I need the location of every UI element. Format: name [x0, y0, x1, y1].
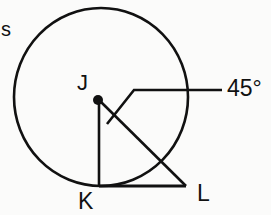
geometry-diagram: s J K L 45°	[0, 0, 271, 215]
center-point-j	[93, 95, 103, 105]
corner-label: s	[1, 19, 11, 39]
point-label-j: J	[77, 72, 88, 94]
segment-jl	[99, 100, 186, 186]
angle-label: 45°	[227, 77, 262, 100]
diagram-figure	[0, 0, 271, 215]
point-label-l: L	[197, 182, 210, 205]
point-label-k: K	[78, 190, 93, 213]
angle-callout-line	[107, 90, 222, 124]
